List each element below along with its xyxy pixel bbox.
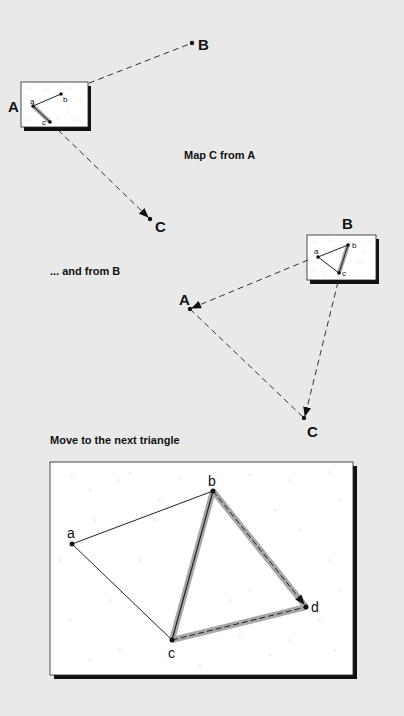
point-c <box>170 638 175 643</box>
label-C: C <box>155 218 166 235</box>
label-C: C <box>307 423 318 440</box>
label-c: c <box>42 118 46 127</box>
point-C <box>302 416 306 420</box>
point-c <box>337 271 341 275</box>
dashed-arrow-to-a <box>192 260 308 308</box>
label-a: a <box>67 525 75 541</box>
label-B: B <box>342 215 353 232</box>
dashed-arrow-to-c <box>58 130 148 217</box>
diagram-canvas: a b c A B C B a b c A <box>0 0 404 716</box>
label-b: b <box>208 473 216 489</box>
panel-map-c-from-a: a b c A B C <box>8 36 209 235</box>
label-d: d <box>311 599 319 615</box>
label-c: c <box>342 269 346 278</box>
label-A: A <box>179 291 190 308</box>
caption-move-next-triangle: Move to the next triangle <box>50 434 180 446</box>
point-C <box>148 217 152 221</box>
point-a <box>70 542 75 547</box>
label-c: c <box>168 645 175 661</box>
caption-map-c-from-a: Map C from A <box>184 149 255 161</box>
point-d <box>304 605 309 610</box>
panel-next-triangle: a b c d <box>50 462 357 679</box>
dashed-line-a-to-c <box>190 309 304 418</box>
label-b: b <box>63 95 68 104</box>
point-B <box>190 41 194 45</box>
point-b <box>346 243 350 247</box>
label-b: b <box>352 241 357 250</box>
label-a: a <box>30 97 35 106</box>
label-B: B <box>198 36 209 53</box>
big-box <box>50 462 353 675</box>
dashed-arrow-to-c <box>305 282 338 416</box>
caption-and-from-b: ... and from B <box>50 265 120 277</box>
point-b <box>211 489 216 494</box>
label-a: a <box>314 247 319 256</box>
point-c <box>48 120 52 124</box>
label-A: A <box>8 98 19 115</box>
panel-and-from-b: B a b c A C <box>179 215 379 440</box>
